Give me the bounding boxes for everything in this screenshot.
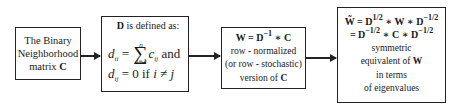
w-formula: W = D−1 ∗ C [236, 31, 291, 45]
summation-icon: ∑nj=1 [133, 42, 147, 64]
b4-w-symbol: W [413, 56, 423, 66]
b1-line1: The Binary [24, 34, 72, 47]
b4-line5: in terms [376, 69, 407, 83]
w-tilde: W̃ [345, 16, 355, 27]
b3-c-symbol: C [280, 73, 287, 83]
c-formula: = D−1/2 ∗ C ∗ D−1/2 [350, 28, 433, 42]
w-formula-rhs: ∗ C [272, 32, 291, 43]
eq-and: and [158, 46, 180, 61]
eq2-neq: ≠ [157, 66, 171, 81]
w-formula-exp: −1 [264, 29, 273, 38]
f1-eq-d: = D [355, 16, 373, 27]
b4-equiv-text: equivalent of [361, 56, 413, 66]
d-symbol: D [117, 20, 124, 31]
eq2-j: j [170, 66, 174, 81]
b4-line3: symmetric [371, 42, 411, 56]
f1-exp2: −1/2 [423, 13, 438, 22]
f1-exp1: 1/2 [373, 13, 383, 22]
b1-matrix-symbol: C [59, 61, 67, 72]
binary-neighborhood-matrix-box: The Binary Neighborhood matrix C [15, 27, 81, 80]
b3-version-text: version of [240, 73, 281, 83]
eq2-equals: = [118, 66, 132, 81]
b1-line3: matrix C [29, 60, 67, 73]
b1-matrix-text: matrix [29, 61, 59, 72]
d-title-text: is defined as: [124, 20, 179, 31]
eq2-if: if [139, 66, 153, 81]
b4-line6: of eigenvalues [364, 82, 419, 96]
arrow-1 [81, 55, 100, 57]
d-diagonal-equation: dii = ∑nj=1cij and [108, 40, 180, 62]
symmetric-equivalent-box: W̃ = D1/2 ∗ W ∗ D−1/2 = D−1/2 ∗ C ∗ D−1/… [337, 7, 446, 103]
b3-line3: version of C [240, 72, 288, 86]
b4-line4: equivalent of W [361, 55, 423, 69]
w-formula-lhs: W = D [236, 32, 264, 43]
f2-exp1: −1/2 [365, 26, 380, 35]
d-definition-box: D is defined as: dii = ∑nj=1cij and dij … [101, 16, 189, 92]
d-definition-title: D is defined as: [108, 20, 188, 31]
b3-line2: (or row - stochastic) [225, 58, 302, 72]
f1-mid: ∗ W ∗ D [383, 16, 424, 27]
f2-eq-d: = D [350, 29, 365, 40]
eq-equals: = [118, 46, 132, 61]
b1-line2: Neighborhood [18, 47, 79, 60]
row-normalized-box: W = D−1 ∗ C row - normalized (or row - s… [221, 27, 306, 89]
arrow-2 [189, 55, 220, 57]
d-offdiagonal-equation: dij = 0 if i ≠ j [108, 66, 174, 82]
f2-exp2: −1/2 [418, 26, 433, 35]
b3-line1: row - normalized [231, 45, 296, 59]
f2-mid: ∗ C ∗ D [380, 29, 418, 40]
arrow-3 [306, 57, 336, 59]
